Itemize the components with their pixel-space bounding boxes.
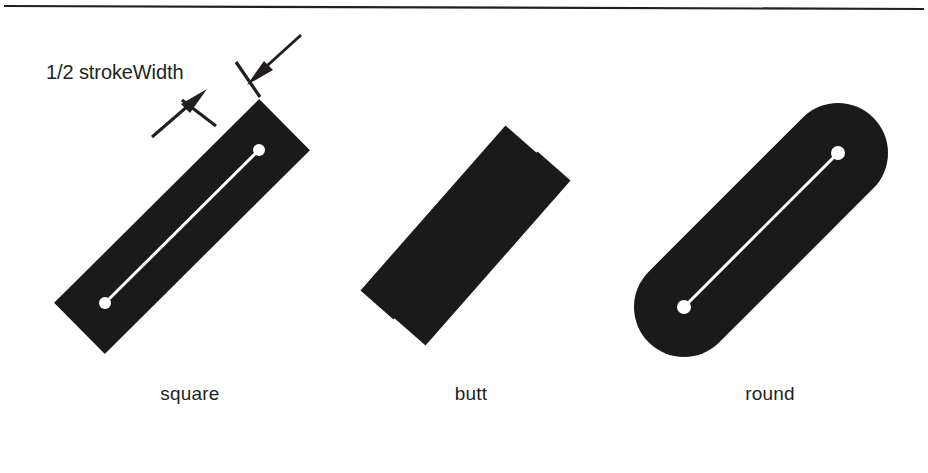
square-cap-end-point: [253, 144, 265, 156]
figure-canvas: 1/2 strokeWidth square butt round: [0, 0, 928, 473]
round-cap-start-point: [677, 300, 691, 314]
cap-label-square: square: [110, 383, 270, 405]
cap-example-square: [99, 144, 265, 309]
square-cap-start-point: [99, 297, 111, 309]
cap-example-butt: [377, 140, 554, 331]
half-stroke-width-label: 1/2 strokeWidth: [46, 61, 183, 84]
cap-label-round: round: [690, 383, 850, 405]
round-cap-end-point: [831, 146, 845, 160]
top-rule: [4, 6, 924, 9]
cap-label-butt: butt: [391, 383, 551, 405]
square-cap-centerline: [105, 150, 259, 303]
cap-example-round: [677, 146, 845, 314]
